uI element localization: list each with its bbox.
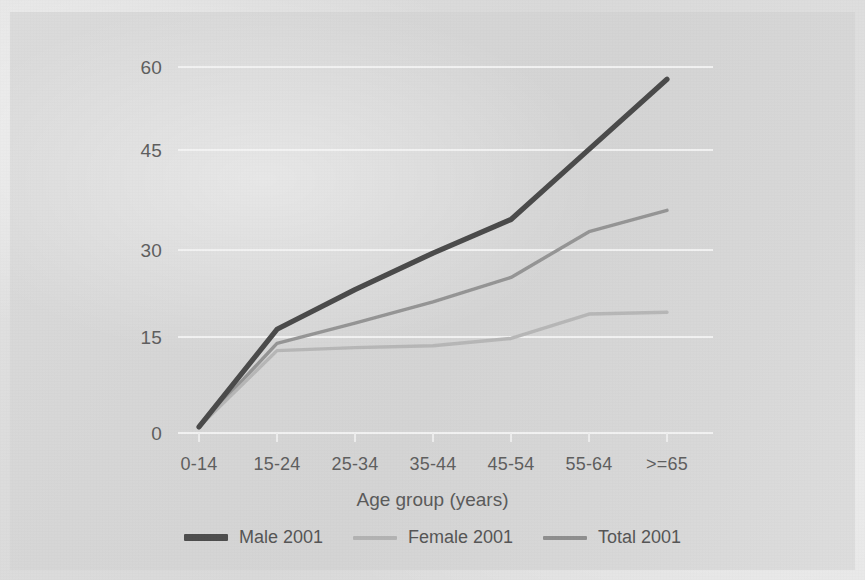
chart-plot-area: 60 45 30 15 0 0-14 15-24 25-34 35-44 45-… — [10, 12, 855, 570]
x-tick-label-65plus: >=65 — [627, 454, 707, 475]
legend-label-female: Female 2001 — [408, 527, 513, 548]
series-line-male — [199, 79, 667, 427]
x-tick-label-0-14: 0-14 — [159, 454, 239, 475]
y-tick-label-30: 30 — [122, 240, 162, 262]
chart-screenshot: 60 45 30 15 0 0-14 15-24 25-34 35-44 45-… — [0, 0, 865, 580]
x-tick-label-55-64: 55-64 — [549, 454, 629, 475]
legend-item-female[interactable]: Female 2001 — [353, 527, 513, 548]
x-tick-label-35-44: 35-44 — [393, 454, 473, 475]
x-axis-title: Age group (years) — [10, 489, 855, 511]
y-tick-label-0: 0 — [122, 423, 162, 445]
x-tick-marks — [199, 433, 667, 442]
x-tick-label-45-54: 45-54 — [471, 454, 551, 475]
x-tick-label-15-24: 15-24 — [237, 454, 317, 475]
legend-swatch-total-icon — [543, 536, 587, 540]
series-line-total — [199, 210, 667, 427]
legend-swatch-female-icon — [353, 536, 397, 540]
y-tick-label-15: 15 — [122, 327, 162, 349]
legend-swatch-male-icon — [184, 534, 228, 541]
series-line-female — [199, 312, 667, 427]
chart-legend: Male 2001 Female 2001 Total 2001 — [10, 527, 855, 548]
legend-item-total[interactable]: Total 2001 — [543, 527, 681, 548]
legend-label-total: Total 2001 — [598, 527, 681, 548]
y-tick-label-60: 60 — [122, 57, 162, 79]
y-tick-label-45: 45 — [122, 140, 162, 162]
x-tick-label-25-34: 25-34 — [315, 454, 395, 475]
legend-label-male: Male 2001 — [239, 527, 323, 548]
legend-item-male[interactable]: Male 2001 — [184, 527, 323, 548]
chart-canvas — [10, 12, 855, 570]
